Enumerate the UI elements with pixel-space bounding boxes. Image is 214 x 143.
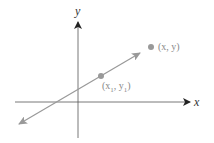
coordinate-diagram: y x (x, y) (x1, y1) xyxy=(0,0,214,143)
point-x-y-label: (x, y) xyxy=(158,41,180,53)
point-x-y xyxy=(148,44,154,50)
point-x1-y1-label: (x1, y1) xyxy=(102,80,131,94)
point-x1-y1 xyxy=(98,73,104,79)
x-axis-label: x xyxy=(193,95,200,109)
y-axis-label: y xyxy=(74,4,81,18)
